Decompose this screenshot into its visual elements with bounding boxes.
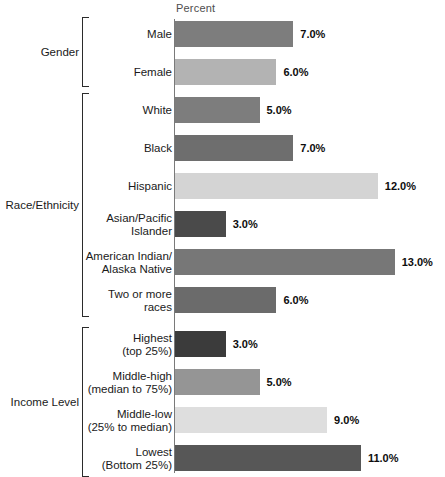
bar-row: Black7.0% xyxy=(0,135,445,161)
bar xyxy=(175,249,395,275)
bar xyxy=(175,173,378,199)
bar-value-label: 5.0% xyxy=(267,376,292,388)
bar-value-label: 6.0% xyxy=(283,294,308,306)
bar-chart: Percent GenderMale7.0%Female6.0%Race/Eth… xyxy=(0,0,445,477)
bar xyxy=(175,21,293,47)
bar-category-label: Highest (top 25%) xyxy=(122,332,172,357)
bar-category-label: Middle-low (25% to median) xyxy=(88,408,172,433)
bar-row: Female6.0% xyxy=(0,59,445,85)
bar-row: White5.0% xyxy=(0,97,445,123)
group-label-race-ethnicity: Race/Ethnicity xyxy=(5,199,79,211)
bar-value-label: 13.0% xyxy=(402,256,433,268)
bar-category-label: White xyxy=(143,104,172,117)
bar-category-label: Lowest (Bottom 25%) xyxy=(102,446,172,471)
bar xyxy=(175,369,260,395)
bar-value-label: 3.0% xyxy=(233,218,258,230)
bar-row: Highest (top 25%)3.0% xyxy=(0,331,445,357)
bar-row: Middle-high (median to 75%)5.0% xyxy=(0,369,445,395)
bar-category-label: Male xyxy=(147,28,172,41)
bar-row: Lowest (Bottom 25%)11.0% xyxy=(0,445,445,471)
bar-value-label: 7.0% xyxy=(300,28,325,40)
bar-value-label: 7.0% xyxy=(300,142,325,154)
bar-row: American Indian/ Alaska Native13.0% xyxy=(0,249,445,275)
value-axis-line xyxy=(174,19,175,473)
bar-category-label: Middle-high (median to 75%) xyxy=(88,370,172,395)
bar-value-label: 6.0% xyxy=(283,66,308,78)
bar xyxy=(175,287,276,313)
bar-value-label: 5.0% xyxy=(267,104,292,116)
bar-value-label: 3.0% xyxy=(233,338,258,350)
bar xyxy=(175,331,226,357)
bar xyxy=(175,97,260,123)
bar-category-label: Hispanic xyxy=(128,180,172,193)
bar-value-label: 9.0% xyxy=(334,414,359,426)
group-label-gender: Gender xyxy=(41,46,79,58)
bar-category-label: Female xyxy=(134,66,172,79)
bar-row: Hispanic12.0% xyxy=(0,173,445,199)
bar-category-label: Black xyxy=(144,142,172,155)
bar xyxy=(175,135,293,161)
bar xyxy=(175,211,226,237)
bar-category-label: American Indian/ Alaska Native xyxy=(86,250,172,275)
bar-category-label: Asian/Pacific Islander xyxy=(106,212,172,237)
bar xyxy=(175,407,327,433)
bar-row: Middle-low (25% to median)9.0% xyxy=(0,407,445,433)
bar-value-label: 12.0% xyxy=(385,180,416,192)
axis-header-percent: Percent xyxy=(176,2,215,14)
bar-row: Asian/Pacific Islander3.0% xyxy=(0,211,445,237)
bar-category-label: Two or more races xyxy=(108,288,172,313)
bar-value-label: 11.0% xyxy=(368,452,399,464)
bar-row: Two or more races6.0% xyxy=(0,287,445,313)
bar xyxy=(175,59,276,85)
bar-row: Male7.0% xyxy=(0,21,445,47)
group-bracket xyxy=(82,93,89,317)
bar xyxy=(175,445,361,471)
